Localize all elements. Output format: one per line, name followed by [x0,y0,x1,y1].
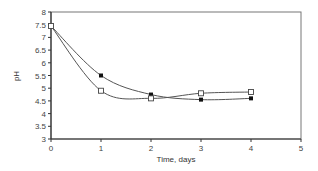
y-tick-label: 3.5 [35,122,47,131]
y-tick-label: 7 [42,33,47,42]
x-tick-label: 3 [199,144,204,153]
x-axis-title: Time, days [157,155,196,164]
y-tick-label: 7.5 [35,21,47,30]
series-filled-diamond [49,24,253,102]
y-tick-label: 3 [42,135,47,144]
y-tick-label: 6.5 [35,46,47,55]
ph-over-time-chart: 33.544.555.566.577.58 012345 Time, days … [0,0,318,171]
open-square-marker [149,96,154,101]
filled-marker [99,74,103,78]
x-tick-label: 4 [249,144,254,153]
y-tick-label: 4.5 [35,97,47,106]
data-series [49,23,254,101]
y-tick-label: 4 [42,110,47,119]
y-tick-label: 5.5 [35,72,47,81]
y-tick-label: 6 [42,59,47,68]
x-tick-label: 0 [49,144,54,153]
x-tick-label: 5 [299,144,304,153]
filled-marker [249,96,253,100]
x-tick-label: 2 [149,144,154,153]
series-open-square [49,23,254,100]
open-square-marker [99,88,104,93]
x-tick-label: 1 [99,144,104,153]
x-axis: 012345 [49,139,304,153]
plot-frame [51,12,301,139]
y-tick-label: 8 [42,8,47,17]
open-square-marker [249,90,254,95]
filled-marker [199,98,203,102]
open-square-marker [199,91,204,96]
open-square-marker [49,23,54,28]
y-axis-title: pH [12,71,21,81]
y-tick-label: 5 [42,84,47,93]
